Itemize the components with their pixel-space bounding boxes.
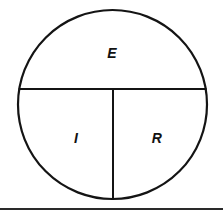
segment-label-voltage: E [107, 45, 117, 61]
ohms-law-circle-graphic: E I R [0, 0, 223, 215]
segment-label-resistance: R [152, 130, 163, 146]
ohms-law-diagram: E I R [0, 0, 223, 215]
